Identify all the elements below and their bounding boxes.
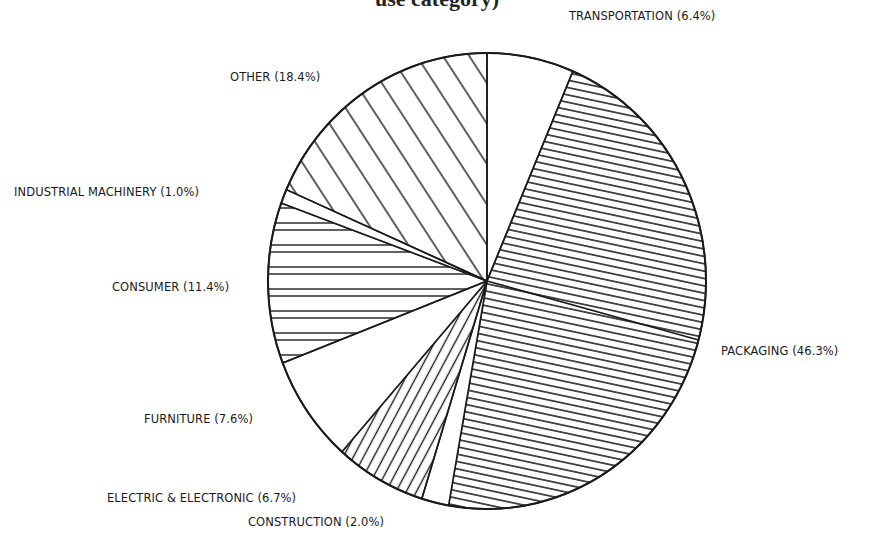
label-packaging: PACKAGING (46.3%) — [721, 343, 838, 358]
label-consumer: CONSUMER (11.4%) — [112, 279, 229, 294]
label-transportation: TRANSPORTATION (6.4%) — [569, 8, 715, 23]
pie-chart — [0, 0, 896, 548]
label-other: OTHER (18.4%) — [230, 69, 320, 84]
label-furniture: FURNITURE (7.6%) — [144, 411, 253, 426]
label-electric: ELECTRIC & ELECTRONIC (6.7%) — [107, 490, 296, 505]
pie-slices — [268, 53, 706, 509]
label-construction: CONSTRUCTION (2.0%) — [248, 514, 384, 529]
label-industrial: INDUSTRIAL MACHINERY (1.0%) — [14, 184, 199, 199]
